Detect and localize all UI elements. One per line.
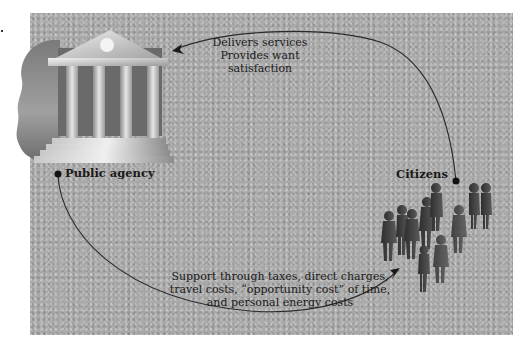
edge-label-line: Delivers services [200, 36, 320, 49]
edge-label-line: Support through taxes, direct charges, [160, 270, 400, 283]
arrowhead-left-icon [172, 44, 184, 54]
node-label-citizens: Citizens [396, 168, 448, 181]
agency-node-dot [55, 171, 62, 178]
edge-label-delivers-services: Delivers services Provides want satisfac… [200, 36, 320, 75]
edge-label-line: Provides want [200, 49, 320, 62]
node-label-public-agency: Public agency [65, 167, 155, 180]
government-building-icon [17, 30, 174, 163]
edge-label-line: and personal energy costs [160, 296, 400, 309]
edge-label-line: satisfaction [200, 62, 320, 75]
citizens-node-dot [453, 178, 460, 185]
edge-label-line: travel costs, “opportunity cost” of time… [160, 283, 400, 296]
edge-label-support-costs: Support through taxes, direct charges, t… [160, 270, 400, 309]
